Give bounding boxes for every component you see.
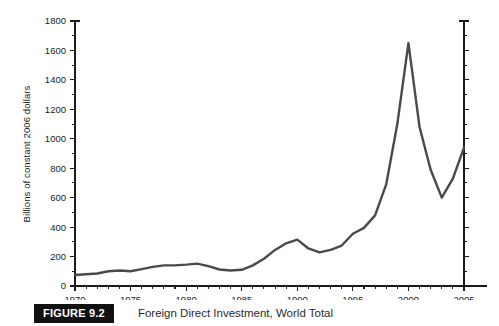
y-tick-label: 1400 (45, 74, 66, 85)
y-axis: 020040060080010001200140016001800 (45, 15, 80, 291)
x-axis-ticks (75, 286, 464, 291)
y-tick-label: 1200 (45, 104, 66, 115)
right-axis-ticks (464, 21, 469, 286)
figure-number-badge: FIGURE 9.2 (34, 304, 114, 323)
figure-caption-title: Foreign Direct Investment, World Total (138, 307, 333, 319)
y-axis-tick-labels: 020040060080010001200140016001800 (45, 15, 66, 291)
y-tick-label: 200 (50, 251, 66, 262)
y-axis-label: Billions of constant 2006 dollars (21, 85, 32, 222)
y-tick-label: 400 (50, 222, 66, 233)
line-chart: 020040060080010001200140016001800 197019… (0, 0, 499, 300)
y-tick-label: 1800 (45, 15, 66, 26)
y-tick-label: 600 (50, 192, 66, 203)
y-tick-label: 1600 (45, 45, 66, 56)
data-series-line (75, 43, 464, 275)
y-tick-label: 800 (50, 163, 66, 174)
figure-container: 020040060080010001200140016001800 197019… (0, 0, 499, 326)
y-tick-label: 1000 (45, 133, 66, 144)
right-axis (459, 21, 469, 286)
x-axis: 19701975198019851990199520002005 (64, 286, 487, 300)
figure-caption: FIGURE 9.2 Foreign Direct Investment, Wo… (0, 300, 499, 326)
y-axis-ticks (70, 21, 75, 286)
y-tick-label: 0 (61, 280, 66, 291)
